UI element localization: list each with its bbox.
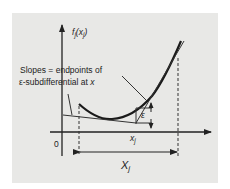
y-axis-label-sub: j bbox=[74, 31, 75, 38]
y-axis-label-arg: (x bbox=[76, 27, 83, 37]
annotation-line-1: Slopes = endpoints of bbox=[20, 66, 102, 75]
domain-label: Xj bbox=[121, 160, 130, 171]
domain-label-sub: j bbox=[128, 164, 130, 173]
xj-label: xj bbox=[130, 134, 136, 143]
xj-label-sub: j bbox=[134, 137, 135, 144]
annotation-line-2: ε-subdifferential at x bbox=[19, 78, 94, 87]
diagram-graphics bbox=[0, 0, 230, 189]
epsilon-label: ε bbox=[141, 111, 145, 120]
annotation-line-2-text: ε-subdifferential at bbox=[19, 77, 90, 87]
leader-line-left bbox=[68, 94, 72, 115]
origin-label: 0 bbox=[54, 140, 59, 149]
diagram-stage: fj(xj) 0 xj Xj ε Slopes = endpoints of ε… bbox=[0, 0, 230, 189]
y-axis-label-close: ) bbox=[84, 27, 87, 37]
y-axis-label: fj(xj) bbox=[72, 28, 87, 37]
annotation-line-2-var: x bbox=[90, 77, 94, 87]
leader-line-right bbox=[122, 76, 147, 101]
